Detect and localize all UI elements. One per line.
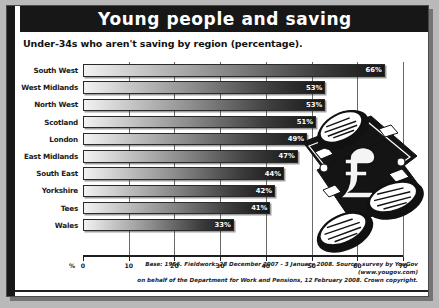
bar-row: South East44%	[21, 165, 421, 182]
bar-value-label: 49%	[288, 135, 307, 143]
bar-track: 47%	[83, 148, 421, 165]
bar-track: 53%	[83, 96, 421, 113]
bar	[83, 99, 325, 111]
bar-category-label: Scotland	[21, 118, 83, 127]
bar-category-label: East Midlands	[21, 152, 83, 161]
infographic-card: Young people and saving Under-34s who ar…	[6, 5, 429, 297]
bar-value-label: 66%	[365, 66, 384, 74]
bar-track: 53%	[83, 79, 421, 96]
bar-row: Yorkshire42%	[21, 182, 421, 199]
bar-row: North West53%	[21, 96, 421, 113]
axis-tick	[83, 257, 84, 261]
bar-row: East Midlands47%	[21, 148, 421, 165]
bar-value-label: 47%	[279, 152, 298, 160]
bar	[83, 133, 307, 145]
bar	[83, 116, 316, 128]
bar-category-label: Wales	[21, 221, 83, 230]
axis-tick-label: 0	[81, 262, 85, 269]
bar-track: 42%	[83, 182, 421, 199]
bar-group: South West66%West Midlands53%North West5…	[21, 62, 421, 234]
bar	[83, 202, 270, 214]
bar	[83, 150, 298, 162]
footer-rule	[15, 290, 428, 292]
footnote-line-2: on behalf of the Department for Work and…	[118, 276, 418, 284]
axis-line	[83, 255, 403, 257]
bar-track: 66%	[83, 62, 421, 79]
bar-track: 33%	[83, 217, 421, 234]
page-title: Young people and saving	[98, 9, 352, 29]
bar-category-label: South East	[21, 169, 83, 178]
bar-row: Scotland51%	[21, 114, 421, 131]
bar	[83, 167, 284, 179]
bar-category-label: London	[21, 135, 83, 144]
bar-track: 51%	[83, 114, 421, 131]
bar-track: 41%	[83, 200, 421, 217]
bar-category-label: Tees	[21, 204, 83, 213]
chart-subtitle: Under-34s who aren't saving by region (p…	[23, 38, 303, 49]
bar-category-label: Yorkshire	[21, 186, 83, 195]
left-black-strip	[7, 6, 15, 297]
chart-plot-area: South West66%West Midlands53%North West5…	[21, 62, 421, 262]
bar-category-label: North West	[21, 100, 83, 109]
infographic-page: Young people and saving Under-34s who ar…	[0, 0, 439, 308]
bar-row: London49%	[21, 131, 421, 148]
bar-value-label: 42%	[256, 187, 275, 195]
bar-track: 44%	[83, 165, 421, 182]
bar-value-label: 53%	[306, 84, 325, 92]
bar-value-label: 44%	[265, 170, 284, 178]
footnote: Base: 1956. Fieldwork: 28 December 2007 …	[118, 260, 418, 284]
bar-value-label: 53%	[306, 101, 325, 109]
bar	[83, 219, 234, 231]
bar	[83, 185, 275, 197]
bar-value-label: 33%	[215, 221, 234, 229]
footnote-line-1: Base: 1956. Fieldwork: 28 December 2007 …	[118, 260, 418, 276]
bar-row: South West66%	[21, 62, 421, 79]
bar-row: Tees41%	[21, 200, 421, 217]
bar-value-label: 41%	[251, 204, 270, 212]
bar	[83, 64, 385, 76]
axis-unit-label: %	[69, 262, 75, 269]
bar	[83, 81, 325, 93]
title-banner: Young people and saving	[20, 6, 429, 32]
bar-category-label: West Midlands	[21, 83, 83, 92]
bar-track: 49%	[83, 131, 421, 148]
bar-row: Wales33%	[21, 217, 421, 234]
bar-category-label: South West	[21, 66, 83, 75]
bar-row: West Midlands53%	[21, 79, 421, 96]
bar-value-label: 51%	[297, 118, 316, 126]
